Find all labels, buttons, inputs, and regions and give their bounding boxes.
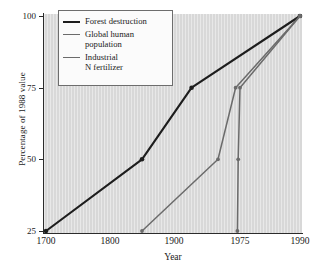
- x-tick-label: 1990: [280, 236, 320, 247]
- legend-label: Industrial N fertilizer: [85, 52, 123, 72]
- data-point-marker: [140, 157, 145, 162]
- legend-item: Forest destruction: [63, 16, 168, 26]
- y-tick-label: 75: [6, 84, 36, 93]
- x-axis-title: Year: [44, 252, 302, 262]
- y-tick-mark: [39, 16, 43, 17]
- x-tick-label: 1975: [220, 236, 260, 247]
- legend-label: Forest destruction: [85, 16, 147, 26]
- legend-line-swatch: [63, 21, 80, 23]
- y-tick-mark: [39, 231, 43, 232]
- x-axis-spine: [43, 233, 303, 234]
- legend-label: Global human population: [85, 29, 134, 49]
- data-point-marker: [216, 157, 220, 161]
- legend-item: Industrial N fertilizer: [63, 52, 168, 72]
- y-tick-mark: [39, 159, 43, 160]
- data-point-marker: [236, 157, 240, 161]
- x-tick-label: 1800: [90, 236, 130, 247]
- x-tick-label: 1700: [26, 236, 66, 247]
- data-point-marker: [140, 229, 144, 233]
- x-tick-label: 1900: [154, 236, 194, 247]
- data-point-marker: [298, 14, 302, 18]
- chart-legend: Forest destructionGlobal human populatio…: [58, 10, 173, 86]
- data-point-marker: [236, 229, 240, 233]
- legend-line-swatch: [63, 34, 80, 35]
- y-tick-mark: [39, 88, 43, 89]
- chart-figure: Percentage of 1988 value Year 255075100 …: [0, 0, 323, 273]
- y-tick-label: 100: [6, 12, 36, 21]
- data-point-marker: [234, 86, 238, 90]
- series-line: [237, 16, 300, 231]
- data-point-marker: [44, 229, 49, 234]
- legend-line-swatch: [63, 57, 80, 58]
- legend-item: Global human population: [63, 29, 168, 49]
- y-tick-label: 25: [6, 227, 36, 236]
- y-tick-label: 50: [6, 155, 36, 164]
- y-axis-title: Percentage of 1988 value: [17, 44, 27, 194]
- data-point-marker: [189, 85, 194, 90]
- data-point-marker: [238, 86, 242, 90]
